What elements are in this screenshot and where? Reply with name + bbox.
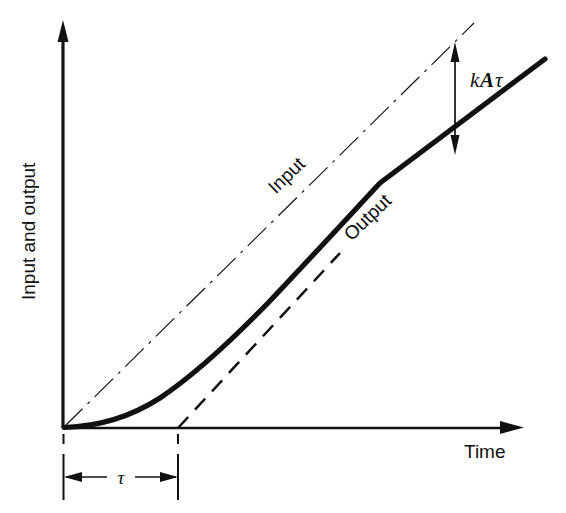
asymptote-line	[178, 253, 340, 428]
chart-svg: Input and output Time Input Output k A τ…	[0, 0, 566, 513]
y-axis-arrowhead	[58, 20, 69, 42]
ka-tau-label-group: k A τ	[470, 68, 504, 92]
output-series-group	[64, 59, 545, 428]
input-series-label: Input	[264, 153, 310, 198]
ka-tau-arrowhead-top	[451, 42, 460, 62]
x-axis-label: Time	[464, 441, 506, 462]
x-axis-arrowhead	[500, 421, 524, 434]
tau-arrowhead-left	[64, 472, 82, 482]
ka-tau-measure-group	[451, 42, 460, 155]
axes-group	[58, 20, 525, 434]
input-series-group	[64, 23, 474, 427]
tau-dimension-label: τ	[118, 467, 126, 488]
asymptote-series-group	[178, 253, 340, 428]
tau-arrowhead-right	[160, 472, 178, 482]
ka-tau-label-a: A	[478, 68, 494, 92]
figure-container: Input and output Time Input Output k A τ…	[0, 0, 566, 513]
output-curve	[64, 59, 545, 428]
ka-tau-arrowhead-bottom	[451, 135, 460, 155]
ka-tau-label-k: k	[470, 68, 480, 92]
y-axis-label: Input and output	[18, 162, 39, 300]
input-line	[64, 23, 474, 427]
